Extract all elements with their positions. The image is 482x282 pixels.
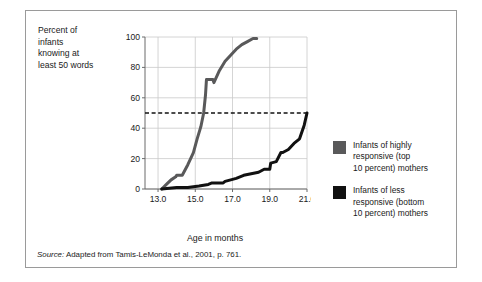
x-axis-title: Age in months [119, 233, 311, 243]
svg-text:21.0: 21.0 [299, 194, 311, 204]
source-text: Adapted from Tamis-LeMonda et al., 2001,… [64, 250, 241, 259]
svg-text:100: 100 [126, 32, 141, 42]
svg-text:20: 20 [130, 154, 140, 164]
legend-swatch-highly-responsive [333, 141, 346, 154]
legend-item-label: Infants of highly responsive (top 10 per… [353, 140, 428, 174]
svg-text:40: 40 [130, 123, 140, 133]
line-chart: 02040608010013.015.017.019.021.0 [119, 29, 311, 215]
y-axis-caption: Percent of infants knowing at least 50 w… [38, 25, 124, 71]
svg-text:60: 60 [130, 93, 140, 103]
screenshot-root: Percent of infants knowing at least 50 w… [0, 0, 482, 282]
svg-text:15.0: 15.0 [187, 194, 204, 204]
source-note: Source: Adapted from Tamis-LeMonda et al… [37, 250, 241, 259]
svg-text:19.0: 19.0 [261, 194, 278, 204]
legend-swatch-less-responsive [333, 186, 346, 199]
svg-text:0: 0 [135, 184, 140, 194]
legend-item: Infants of highly responsive (top 10 per… [333, 140, 478, 174]
chart-legend: Infants of highly responsive (top 10 per… [333, 140, 478, 230]
svg-text:80: 80 [130, 62, 140, 72]
plot-area: 02040608010013.015.017.019.021.0 [119, 29, 311, 215]
legend-item-label: Infants of less responsive (bottom 10 pe… [353, 185, 428, 219]
source-label: Source: [37, 250, 64, 259]
svg-text:17.0: 17.0 [224, 194, 241, 204]
svg-text:13.0: 13.0 [150, 194, 167, 204]
legend-item: Infants of less responsive (bottom 10 pe… [333, 185, 478, 219]
